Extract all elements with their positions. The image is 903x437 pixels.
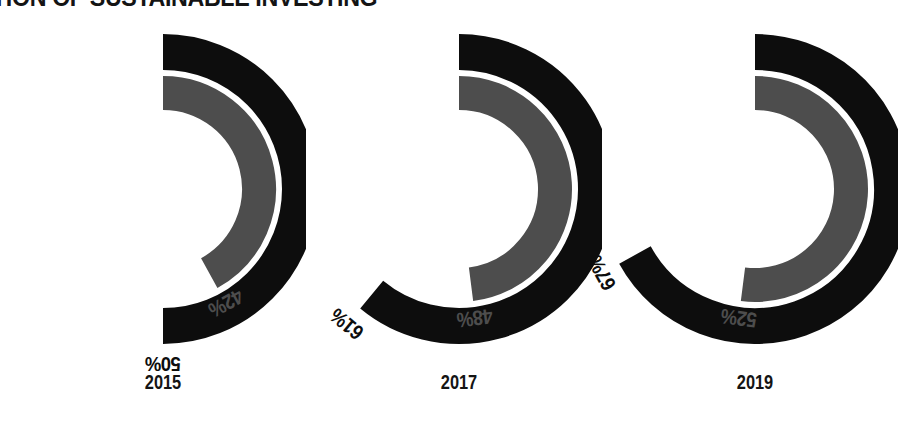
inner-ring-arc-2019 — [743, 93, 851, 285]
donut-rings-2015 — [6, 16, 306, 388]
inner-ring-arc-2015 — [163, 93, 259, 273]
page-title: TION OF SUSTAINABLE INVESTING — [0, 0, 377, 12]
year-label-2015: 2015 — [114, 371, 212, 394]
year-label-2019: 2019 — [706, 371, 804, 394]
year-label-2017: 2017 — [410, 371, 508, 394]
donut-chart-2017: 61% 48% 2017 — [302, 16, 602, 437]
donut-chart-row: 50% 42% 2015 61% 48% 2017 67% 52% 2019 — [0, 16, 903, 437]
donut-chart-2015: 50% 42% 2015 — [6, 16, 306, 437]
inner-ring-arc-2017 — [459, 93, 555, 284]
donut-chart-2019: 67% 52% 2019 — [598, 16, 898, 437]
